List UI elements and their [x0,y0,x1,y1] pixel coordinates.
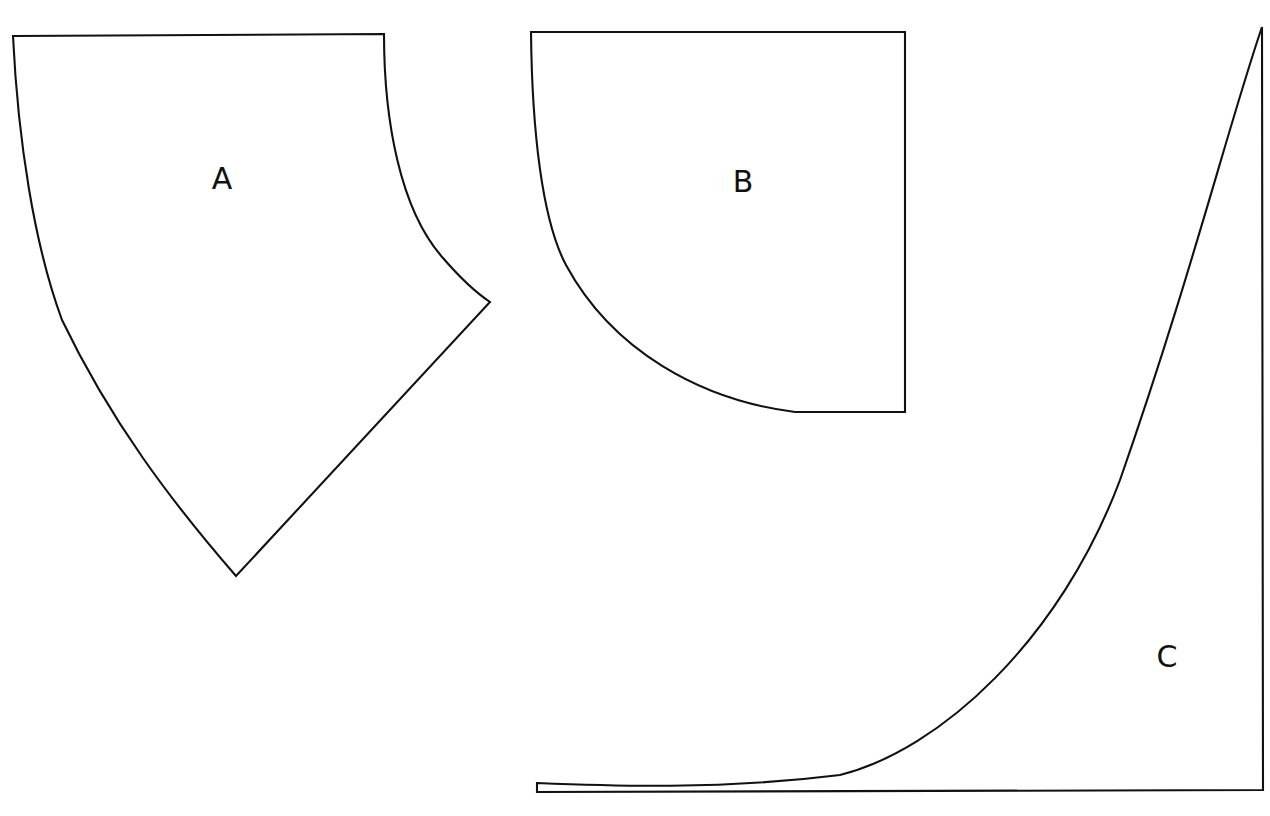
figure-canvas: A B C [0,0,1270,816]
region-c-outline [537,27,1263,792]
region-b-label: B [733,164,754,199]
region-c-group: C [537,27,1263,792]
region-a-outline [13,34,490,576]
region-a-label: A [212,161,233,196]
region-b-outline [531,32,905,412]
geometric-regions-figure: A B C [0,0,1270,816]
region-b-group: B [531,32,905,412]
region-c-label: C [1157,639,1178,674]
region-a-group: A [13,34,490,576]
